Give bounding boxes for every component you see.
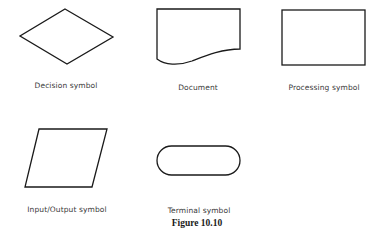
flowchart-symbols-figure bbox=[0, 0, 384, 236]
decision-symbol-label: Decision symbol bbox=[35, 81, 98, 90]
input-output-symbol-shape bbox=[25, 129, 107, 187]
document-symbol-shape bbox=[157, 9, 240, 64]
figure-caption: Figure 10.10 bbox=[172, 218, 223, 228]
input-output-symbol-label: Input/Output symbol bbox=[27, 205, 106, 214]
processing-symbol-label: Processing symbol bbox=[288, 83, 359, 92]
decision-symbol-shape bbox=[20, 9, 113, 64]
processing-symbol-shape bbox=[282, 10, 365, 65]
terminal-symbol-label: Terminal symbol bbox=[168, 206, 231, 215]
terminal-symbol-shape bbox=[157, 146, 240, 175]
document-symbol-label: Document bbox=[178, 83, 218, 92]
